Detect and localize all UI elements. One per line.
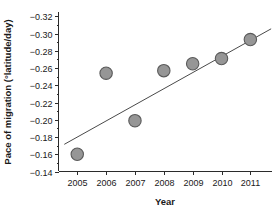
y-tick-label: −0.20 xyxy=(30,116,53,126)
scatter-plot: −0.32−0.30−0.28−0.26−0.24−0.22−0.20−0.18… xyxy=(0,0,279,214)
x-tick-label: 2009 xyxy=(183,178,203,188)
data-point xyxy=(244,33,256,45)
trend-line-group xyxy=(64,29,271,145)
y-axis-title: Pace of migration (°latitude/day) xyxy=(2,19,13,164)
y-axis-tick-labels: −0.32−0.30−0.28−0.26−0.24−0.22−0.20−0.18… xyxy=(30,12,53,178)
y-tick-label: −0.22 xyxy=(30,99,53,109)
data-point xyxy=(186,58,198,70)
x-tick-label: 2011 xyxy=(241,178,260,188)
data-point xyxy=(100,67,112,79)
data-point xyxy=(71,148,83,160)
data-point xyxy=(129,114,141,126)
y-tick-label: −0.28 xyxy=(30,47,53,57)
trend-line xyxy=(64,29,271,145)
y-axis-ticks xyxy=(55,17,59,173)
y-tick-label: −0.16 xyxy=(30,150,53,160)
x-tick-label: 2008 xyxy=(154,178,174,188)
x-tick-label: 2010 xyxy=(212,178,232,188)
x-tick-label: 2006 xyxy=(96,178,116,188)
x-axis-tick-labels: 2005200620072008200920102011 xyxy=(67,178,260,188)
y-tick-label: −0.32 xyxy=(30,12,53,22)
x-tick-label: 2007 xyxy=(125,178,145,188)
chart-figure: −0.32−0.30−0.28−0.26−0.24−0.22−0.20−0.18… xyxy=(0,0,279,214)
y-tick-label: −0.24 xyxy=(30,81,53,91)
axis-spines xyxy=(59,12,273,172)
y-tick-label: −0.14 xyxy=(30,168,53,178)
y-tick-label: −0.30 xyxy=(30,30,53,40)
x-tick-label: 2005 xyxy=(67,178,87,188)
data-point xyxy=(158,64,170,76)
x-axis-title: Year xyxy=(155,196,175,207)
data-point xyxy=(215,52,227,64)
y-tick-label: −0.26 xyxy=(30,64,53,74)
y-tick-label: −0.18 xyxy=(30,133,53,143)
x-axis-ticks xyxy=(78,172,251,176)
